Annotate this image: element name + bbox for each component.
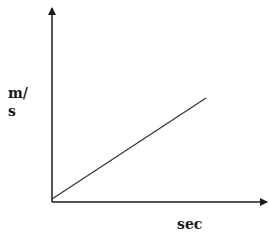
y-axis-label-line2: s — [8, 103, 16, 119]
data-line — [52, 98, 206, 199]
velocity-time-graph — [0, 0, 270, 232]
y-axis-label: m/s — [8, 84, 28, 120]
y-axis-label-line1: m/ — [8, 85, 28, 101]
x-axis-label: sec — [177, 215, 202, 232]
